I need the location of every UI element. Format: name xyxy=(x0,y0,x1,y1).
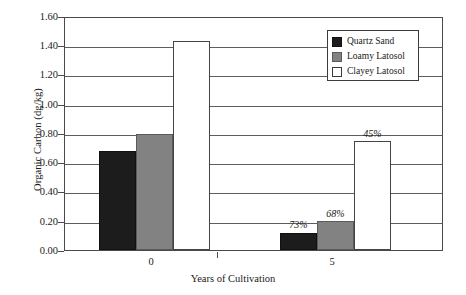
gridline-1-00 xyxy=(65,106,442,107)
y-tick-label-1-40: 1.40 xyxy=(20,41,58,51)
x-tick-mark-center xyxy=(217,252,218,258)
data-label-clayey-latosol-year5: 45% xyxy=(346,128,399,139)
y-tick-label-0-80: 0.80 xyxy=(20,129,58,139)
legend-label-quartz-sand: Quartz Sand xyxy=(347,36,394,47)
bar-clayey-latosol-year5 xyxy=(354,141,391,250)
legend-item-quartz-sand: Quartz Sand xyxy=(332,34,414,49)
y-tick-label-0-00: 0.00 xyxy=(20,246,58,256)
bar-quartz-sand-year5 xyxy=(280,233,317,250)
plot-area: 73% 68% 45% Quartz Sand Loamy Latosol Cl… xyxy=(64,17,443,251)
legend-swatch-loamy-latosol-icon xyxy=(332,52,342,62)
x-tick-label-5: 5 xyxy=(312,256,352,267)
data-label-loamy-latosol-year5: 68% xyxy=(309,208,362,219)
x-tick-label-0: 0 xyxy=(131,256,171,267)
x-axis-title: Years of Cultivation xyxy=(0,273,466,284)
legend-swatch-quartz-sand-icon xyxy=(332,37,342,47)
y-tick-label-0-60: 0.60 xyxy=(20,158,58,168)
legend-label-loamy-latosol: Loamy Latosol xyxy=(347,51,405,62)
y-tick-label-1-20: 1.20 xyxy=(20,70,58,80)
y-tick-label-1-00: 1.00 xyxy=(20,100,58,110)
y-tick-label-0-40: 0.40 xyxy=(20,187,58,197)
y-tick-label-0-20: 0.20 xyxy=(20,217,58,227)
y-tick-mark-0-00 xyxy=(58,251,64,252)
y-tick-label-1-60: 1.60 xyxy=(20,12,58,22)
legend-label-clayey-latosol: Clayey Latosol xyxy=(347,66,405,77)
chart-figure: Organic Carbon (dg/kg) 1.60 1.40 1.20 1.… xyxy=(0,0,466,295)
bar-clayey-latosol-year0 xyxy=(173,41,210,250)
data-label-quartz-sand-year5: 73% xyxy=(272,219,325,230)
legend-swatch-clayey-latosol-icon xyxy=(332,67,342,77)
legend: Quartz Sand Loamy Latosol Clayey Latosol xyxy=(327,30,419,81)
bar-quartz-sand-year0 xyxy=(99,151,136,250)
bar-loamy-latosol-year0 xyxy=(136,134,173,250)
legend-item-loamy-latosol: Loamy Latosol xyxy=(332,49,414,64)
legend-item-clayey-latosol: Clayey Latosol xyxy=(332,64,414,79)
